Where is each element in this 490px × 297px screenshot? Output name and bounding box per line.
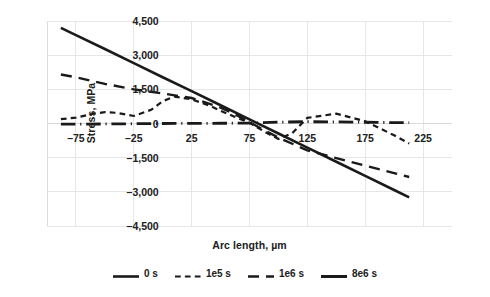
x-tick-label: 75 bbox=[244, 132, 256, 144]
legend-item[interactable]: 0 s bbox=[113, 268, 158, 279]
chart-figure: 4,5003,0001,5000–1,500–3,000–4,500 –75–2… bbox=[0, 0, 490, 297]
legend-label: 1e5 s bbox=[206, 268, 231, 279]
chart-legend: 0 s1e5 s1e6 s8e6 s bbox=[0, 268, 490, 279]
legend-item[interactable]: 8e6 s bbox=[321, 268, 377, 279]
x-tick-label: 125 bbox=[299, 132, 317, 144]
y-tick-label: –4,500 bbox=[107, 220, 159, 232]
x-tick-label: 225 bbox=[414, 132, 432, 144]
legend-item[interactable]: 1e5 s bbox=[175, 268, 231, 279]
y-tick-label: 1,500 bbox=[107, 83, 159, 95]
plot-area: 4,5003,0001,5000–1,500–3,000–4,500 –75–2… bbox=[47, 21, 452, 226]
legend-item[interactable]: 1e6 s bbox=[248, 268, 304, 279]
legend-label: 8e6 s bbox=[352, 268, 377, 279]
x-tick-label: –25 bbox=[125, 132, 143, 144]
x-tick-label: –75 bbox=[67, 132, 85, 144]
legend-label: 0 s bbox=[144, 268, 158, 279]
y-tick-label: 0 bbox=[107, 118, 159, 130]
y-tick-label: –3,000 bbox=[107, 186, 159, 198]
y-axis-title: Stress, MPa bbox=[85, 58, 97, 168]
legend-swatch-icon bbox=[248, 268, 274, 279]
y-tick-label: 3,000 bbox=[107, 49, 159, 61]
y-tick-label: –1,500 bbox=[107, 152, 159, 164]
legend-swatch-icon bbox=[321, 268, 347, 279]
x-tick-label: 25 bbox=[186, 132, 198, 144]
x-axis-title: Arc length, µm bbox=[47, 239, 452, 251]
legend-label: 1e6 s bbox=[279, 268, 304, 279]
legend-swatch-icon bbox=[113, 268, 139, 279]
y-tick-label: 4,500 bbox=[107, 15, 159, 27]
x-tick-label: 175 bbox=[356, 132, 374, 144]
legend-swatch-icon bbox=[175, 268, 201, 279]
